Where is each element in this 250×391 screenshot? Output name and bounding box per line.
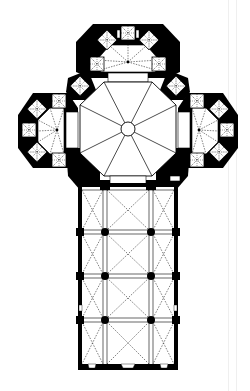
north-apse	[76, 24, 180, 82]
side-door	[174, 305, 177, 311]
oculus	[121, 122, 135, 136]
nave	[76, 180, 180, 370]
side-door	[79, 305, 82, 311]
stair-door	[170, 176, 180, 181]
church-floor-plan	[0, 0, 250, 391]
